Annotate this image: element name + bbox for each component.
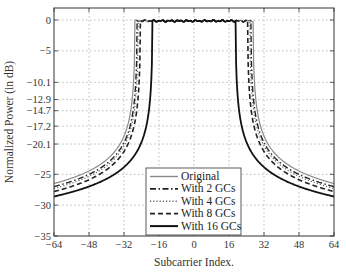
y-tick-label: −25: [35, 169, 51, 180]
x-tick-label: −16: [151, 239, 167, 250]
x-tick-labels: −64−48−32−16016324864: [46, 239, 340, 250]
y-tick-label: 0: [46, 15, 51, 26]
y-tick-label: −30: [35, 200, 51, 211]
x-tick-label: 16: [224, 239, 235, 250]
y-axis-label: Normalized Power (in dB): [3, 61, 16, 183]
y-tick-label: −5: [40, 45, 51, 56]
x-tick-label: 64: [329, 239, 340, 250]
x-tick-label: 48: [294, 239, 305, 250]
power-spectrum-chart: 0−5−10.1−12.9−14.7−17.2−20.1−25−30−35 −6…: [0, 0, 346, 272]
legend: OriginalWith 2 GCsWith 4 GCsWith 8 GCsWi…: [146, 168, 242, 235]
y-tick-label: −20.1: [27, 139, 51, 150]
series-with-8-gcs: [54, 20, 334, 192]
legend-label: With 8 GCs: [181, 207, 236, 219]
y-tick-label: −12.9: [27, 94, 51, 105]
x-axis-label: Subcarrier Index.: [154, 256, 234, 268]
y-tick-labels: 0−5−10.1−12.9−14.7−17.2−20.1−25−30−35: [27, 15, 51, 242]
y-tick-label: −14.7: [27, 105, 51, 116]
x-tick-label: −48: [81, 239, 97, 250]
legend-label: With 4 GCs: [181, 195, 236, 207]
x-tick-label: 0: [191, 239, 196, 250]
x-tick-label: −32: [116, 239, 132, 250]
legend-label: Original: [181, 170, 219, 183]
x-tick-label: −64: [46, 239, 63, 250]
y-tick-label: −10.1: [27, 77, 51, 88]
legend-label: With 16 GCs: [181, 220, 242, 232]
x-tick-label: 32: [259, 239, 270, 250]
y-tick-label: −17.2: [27, 121, 51, 132]
legend-label: With 2 GCs: [181, 182, 236, 194]
